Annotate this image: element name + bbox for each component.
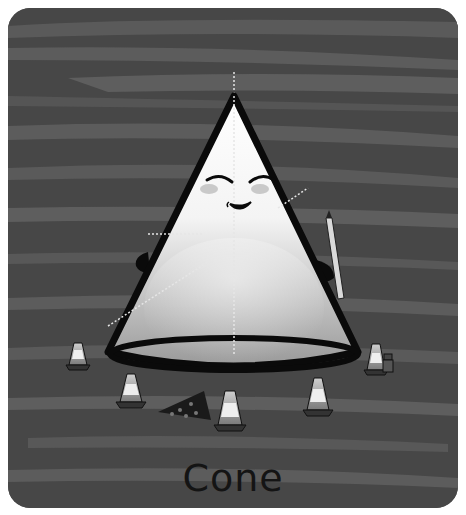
card-title: Cone: [8, 456, 458, 500]
right-cheek: [251, 184, 269, 194]
cone-illustration: [8, 8, 458, 508]
cone-card: Cone: [8, 8, 458, 508]
small-figure-icon: [383, 354, 393, 372]
left-cheek: [200, 184, 218, 194]
